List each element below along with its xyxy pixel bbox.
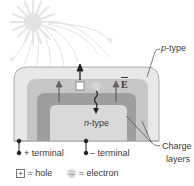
charge-layers-label-line1: Charge	[162, 142, 192, 151]
legend-hole-icon: +	[16, 169, 25, 178]
minus-terminal-label: – terminal	[90, 149, 130, 158]
legend-electron-text: = electron	[79, 168, 119, 178]
charge-layers-label-line2: layers	[166, 155, 190, 164]
n-type-label: n-type	[84, 119, 109, 128]
legend: + = hole – = electron	[16, 169, 119, 178]
ray-arrowhead-icon	[107, 38, 113, 43]
p-type-label: p-type	[161, 44, 186, 53]
electron-icon	[92, 82, 101, 91]
solar-cell-diagram	[0, 0, 194, 186]
plus-terminal-wire	[17, 139, 21, 155]
legend-electron-icon: –	[67, 169, 76, 178]
electric-field-label: E	[121, 80, 128, 90]
hole-icon	[76, 82, 84, 90]
vector-arrow-icon	[121, 77, 128, 78]
legend-hole-text: = hole	[28, 168, 53, 178]
minus-terminal-wire	[84, 139, 88, 155]
plus-terminal-label: + terminal	[24, 149, 64, 158]
